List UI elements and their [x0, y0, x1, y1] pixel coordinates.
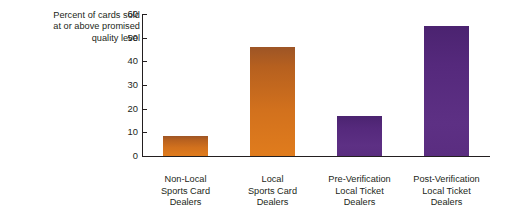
x-axis-label-line: Local Ticket	[316, 186, 403, 198]
x-axis-label-line: Dealers	[142, 197, 229, 209]
y-tick-label: 50	[128, 33, 138, 42]
y-tick-label: 0	[133, 151, 138, 160]
y-tick-mark	[143, 61, 147, 62]
x-axis-label-non-local-sports-card-dealers: Non-Local Sports Card Dealers	[142, 174, 229, 209]
y-tick-mark	[143, 156, 147, 157]
x-axis-label-line: Local	[229, 174, 316, 186]
y-tick-label: 30	[128, 80, 138, 89]
x-axis-label-line: Local Ticket	[403, 186, 490, 198]
bar-chart-figure: Percent of cards sold at or above promis…	[0, 0, 505, 209]
x-axis-label-line: Sports Card	[142, 186, 229, 198]
x-axis-label-line: Post-Verification	[403, 174, 490, 186]
y-axis-label-line-1: Percent of cards sold	[12, 10, 140, 21]
plot-area: 60 50 40 30 20 10 0	[142, 14, 490, 157]
x-axis-line	[142, 156, 490, 157]
y-axis-label: Percent of cards sold at or above promis…	[12, 10, 140, 44]
x-axis-label-line: Dealers	[316, 197, 403, 209]
y-tick-mark	[143, 14, 147, 15]
y-tick-label: 10	[128, 128, 138, 137]
y-axis-label-line-3: quality level	[12, 33, 140, 44]
bar-pre-verification-local-ticket-dealers	[337, 116, 382, 156]
y-tick-mark	[143, 85, 147, 86]
x-axis-label-local-sports-card-dealers: Local Sports Card Dealers	[229, 174, 316, 209]
y-tick-mark	[143, 38, 147, 39]
x-axis-label-pre-verification-local-ticket-dealers: Pre-Verification Local Ticket Dealers	[316, 174, 403, 209]
y-tick-label: 60	[128, 9, 138, 18]
x-axis-label-line: Sports Card	[229, 186, 316, 198]
bar-post-verification-local-ticket-dealers	[424, 26, 469, 156]
y-axis-label-line-2: at or above promised	[12, 21, 140, 32]
x-axis-label-line: Dealers	[403, 197, 490, 209]
y-tick-mark	[143, 132, 147, 133]
x-axis-label-post-verification-local-ticket-dealers: Post-Verification Local Ticket Dealers	[403, 174, 490, 209]
y-tick-mark	[143, 109, 147, 110]
bar-local-sports-card-dealers	[250, 47, 295, 156]
y-tick-label: 20	[128, 104, 138, 113]
bar-non-local-sports-card-dealers	[163, 136, 208, 156]
x-axis-label-line: Pre-Verification	[316, 174, 403, 186]
x-axis-label-line: Dealers	[229, 197, 316, 209]
x-axis-label-line: Non-Local	[142, 174, 229, 186]
y-tick-label: 40	[128, 57, 138, 66]
